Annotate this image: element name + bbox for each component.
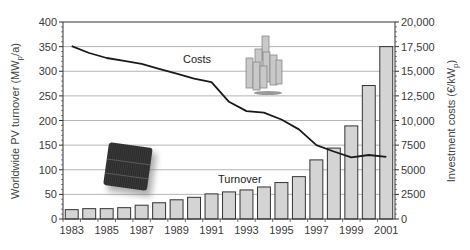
svg-text:2500: 2500 <box>401 188 425 200</box>
svg-text:400: 400 <box>39 16 57 28</box>
left-axis-ticks: 050100150200250300350400 <box>39 16 63 225</box>
right-axis-ticks: 025005000750010,00012,50015,00017,50020,… <box>395 16 435 225</box>
turnover-bar <box>153 203 166 219</box>
costs-label: Costs <box>183 53 212 65</box>
turnover-bar <box>380 47 393 219</box>
turnover-bar <box>223 192 236 219</box>
turnover-bar <box>83 209 96 219</box>
turnover-bar <box>275 183 288 219</box>
svg-text:10,000: 10,000 <box>401 115 435 127</box>
svg-text:50: 50 <box>45 188 57 200</box>
svg-text:7500: 7500 <box>401 139 425 151</box>
svg-text:1995: 1995 <box>269 224 293 236</box>
turnover-bar <box>345 126 358 219</box>
svg-text:15,000: 15,000 <box>401 65 435 77</box>
svg-text:12,500: 12,500 <box>401 90 435 102</box>
svg-text:200: 200 <box>39 115 57 127</box>
svg-text:1985: 1985 <box>94 224 118 236</box>
svg-text:100: 100 <box>39 164 57 176</box>
turnover-bar <box>135 205 148 219</box>
svg-text:1989: 1989 <box>164 224 188 236</box>
solar-cell-image <box>103 142 157 197</box>
turnover-bar <box>65 210 78 219</box>
svg-text:1983: 1983 <box>59 224 83 236</box>
turnover-bar <box>257 187 270 219</box>
chart: 050100150200250300350400 025005000750010… <box>0 0 470 250</box>
svg-text:1999: 1999 <box>339 224 363 236</box>
svg-text:1987: 1987 <box>129 224 153 236</box>
x-axis-ticks: 1983198519871989199119931995199719992001 <box>59 219 398 236</box>
svg-text:20,000: 20,000 <box>401 16 435 28</box>
svg-text:150: 150 <box>39 139 57 151</box>
turnover-label: Turnover <box>218 173 262 185</box>
turnover-bar <box>118 208 131 219</box>
turnover-bar <box>188 197 201 219</box>
svg-text:17,500: 17,500 <box>401 41 435 53</box>
turnover-bar <box>292 177 305 219</box>
svg-text:0: 0 <box>51 213 57 225</box>
svg-text:250: 250 <box>39 90 57 102</box>
svg-text:5000: 5000 <box>401 164 425 176</box>
svg-text:1993: 1993 <box>234 224 258 236</box>
turnover-bars <box>65 47 392 219</box>
svg-text:0: 0 <box>401 213 407 225</box>
turnover-bar <box>362 86 375 219</box>
svg-text:1997: 1997 <box>304 224 328 236</box>
svg-text:350: 350 <box>39 41 57 53</box>
svg-text:1991: 1991 <box>199 224 223 236</box>
turnover-bar <box>310 160 323 219</box>
turnover-bar <box>240 190 253 219</box>
svg-text:2001: 2001 <box>374 224 398 236</box>
solar-module-stack-image <box>246 36 282 95</box>
turnover-bar <box>205 194 218 219</box>
costs-line <box>72 46 387 157</box>
turnover-bar <box>327 148 340 219</box>
right-axis-title: Investment costs (€/kWp) <box>445 60 460 182</box>
left-axis-title: Worldwide PV turnover (MWp/a) <box>9 43 24 199</box>
svg-text:300: 300 <box>39 65 57 77</box>
turnover-bar <box>170 200 183 219</box>
turnover-bar <box>100 209 113 219</box>
